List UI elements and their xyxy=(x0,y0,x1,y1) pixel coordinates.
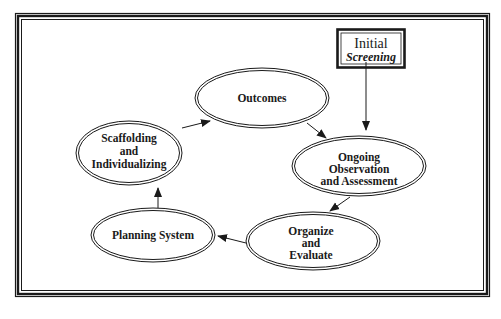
edge-organize-to-planning xyxy=(218,236,246,243)
node-organize-line3: Evaluate xyxy=(289,249,332,261)
edge-ongoing-to-organize xyxy=(330,197,350,211)
node-ongoing: Ongoing Observation and Assessment xyxy=(292,136,426,196)
node-scaffolding-line2: and xyxy=(120,145,139,157)
node-outcomes: Outcomes xyxy=(195,68,329,128)
node-scaffolding-line1: Scaffolding xyxy=(101,132,157,145)
node-organize-line2: and xyxy=(302,237,321,249)
edge-outcomes-to-ongoing xyxy=(307,123,326,138)
node-organize: Organize and Evaluate xyxy=(246,212,380,270)
node-ongoing-line3: and Assessment xyxy=(320,175,397,187)
node-planning-label: Planning System xyxy=(112,229,195,242)
node-outcomes-label: Outcomes xyxy=(237,92,287,104)
initial-screening-title: Initial xyxy=(354,36,388,51)
cycle-diagram: Initial Screening Outcomes Scaffolding a… xyxy=(0,0,501,319)
node-scaffolding-line3: Individualizing xyxy=(92,158,167,171)
edge-scaffolding-to-outcomes xyxy=(182,121,210,128)
node-planning: Planning System xyxy=(91,208,215,262)
initial-screening-subtitle: Screening xyxy=(346,50,396,64)
node-scaffolding: Scaffolding and Individualizing xyxy=(76,121,182,185)
initial-screening-box: Initial Screening xyxy=(338,30,405,68)
node-ongoing-line2: Observation xyxy=(329,163,390,175)
